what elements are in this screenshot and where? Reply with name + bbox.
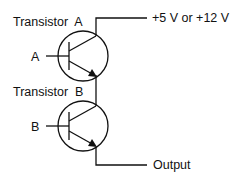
supply-voltage-label: +5 V or +12 V: [152, 11, 230, 25]
input-a-label: A: [31, 50, 40, 64]
transistor-b-symbol: [46, 101, 147, 165]
transistor-a-label: Transistor A: [13, 15, 83, 29]
and-gate-diagram: Transistor A A Transistor B B +5 V or +1…: [0, 0, 245, 184]
input-b-label: B: [31, 120, 39, 134]
output-label: Output: [153, 158, 191, 172]
transistor-b-label: Transistor B: [13, 85, 83, 99]
